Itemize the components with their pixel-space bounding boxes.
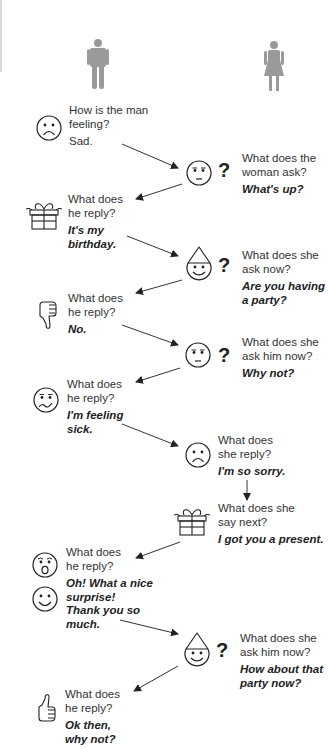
step-question: What does — [218, 434, 286, 448]
step-answer: How about that — [240, 663, 323, 677]
step-answer: surprise! — [66, 591, 153, 605]
step-question: What does the — [242, 152, 316, 166]
step-question: she reply? — [218, 448, 286, 462]
gift-icon — [172, 507, 212, 537]
happy-face-icon — [32, 586, 58, 612]
sad-face-icon — [185, 442, 211, 468]
step-question: What does — [68, 193, 123, 207]
question-mark: ? — [216, 639, 228, 662]
step-answer: birthday. — [68, 238, 123, 252]
concerned-face-icon — [186, 160, 212, 186]
step-answer: sick. — [67, 423, 123, 437]
step-answer: why not? — [65, 733, 120, 747]
step-answer: Thank you so — [66, 604, 153, 618]
step-answer: Oh! What a nice — [66, 577, 153, 591]
step-question: he reply? — [68, 306, 123, 320]
step-1-text: How is the man feeling? Sad. — [69, 104, 148, 149]
thumbs-down-icon — [37, 300, 59, 330]
step-answer: much. — [66, 618, 153, 632]
step-question: woman ask? — [242, 166, 316, 180]
step-question: What does — [66, 546, 153, 560]
step-question: ask now? — [242, 263, 325, 277]
surprised-face-icon — [32, 552, 58, 578]
concerned-face-icon — [185, 342, 211, 368]
thumbs-up-icon — [36, 693, 60, 723]
step-question: he reply? — [68, 207, 123, 221]
step-question: What does — [65, 688, 120, 702]
sick-face-icon — [33, 387, 59, 413]
step-answer: Are you having — [242, 280, 325, 294]
step-question: What does she — [240, 632, 323, 646]
step-question: he reply? — [66, 560, 153, 574]
step-answer: I'm so sorry. — [218, 465, 286, 479]
step-answer: I'm feeling — [67, 409, 123, 423]
step-11-text: What does she ask him now? How about tha… — [240, 632, 323, 690]
step-question: say next? — [218, 516, 323, 530]
step-2-text: What does the woman ask? What's up? — [242, 152, 316, 197]
step-answer: Ok then, — [65, 719, 120, 733]
sad-face-icon — [36, 115, 62, 141]
step-6-text: What does she ask him now? Why not? — [242, 336, 319, 381]
step-answer: No. — [68, 323, 123, 337]
question-mark: ? — [218, 159, 230, 182]
step-question: feeling? — [69, 118, 148, 132]
step-question: ask him now? — [240, 646, 323, 660]
step-question: What does — [67, 378, 123, 392]
step-answer: What's up? — [242, 183, 316, 197]
step-question: How is the man — [69, 104, 148, 118]
step-4-text: What does she ask now? Are you having a … — [242, 249, 325, 307]
step-answer: I got you a present. — [218, 533, 323, 547]
step-question: ask him now? — [242, 350, 319, 364]
step-question: What does she — [218, 502, 323, 516]
step-question: What does she — [242, 249, 325, 263]
party-hat-face-icon — [185, 246, 213, 282]
step-5-text: What does he reply? No. — [68, 292, 123, 337]
step-answer: Why not? — [242, 367, 319, 381]
step-8-text: What does she reply? I'm so sorry. — [218, 434, 286, 479]
step-question: he reply? — [65, 702, 120, 716]
step-9-text: What does she say next? I got you a pres… — [218, 502, 323, 547]
step-7-text: What does he reply? I'm feeling sick. — [67, 378, 123, 436]
step-question: What does — [68, 292, 123, 306]
question-mark: ? — [218, 344, 230, 367]
party-hat-face-icon — [183, 632, 211, 668]
step-10-text: What does he reply? Oh! What a nice surp… — [66, 546, 153, 631]
step-answer: It's my — [68, 224, 123, 238]
step-answer: a party? — [242, 294, 325, 308]
step-12-text: What does he reply? Ok then, why not? — [65, 688, 120, 746]
step-answer: party now? — [240, 677, 323, 691]
step-question: What does she — [242, 336, 319, 350]
step-question: he reply? — [67, 392, 123, 406]
gift-icon — [24, 201, 64, 231]
question-mark: ? — [218, 254, 230, 277]
step-answer: Sad. — [69, 135, 148, 149]
step-3-text: What does he reply? It's my birthday. — [68, 193, 123, 251]
